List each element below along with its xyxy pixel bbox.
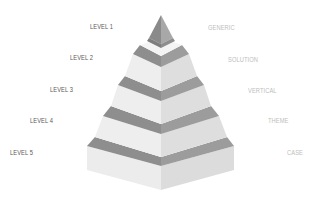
tier-1-apex: [147, 15, 175, 48]
level-5-label: LEVEL 5: [10, 149, 33, 156]
level-4-label: LEVEL 4: [30, 117, 53, 124]
level-1-label: LEVEL 1: [90, 23, 113, 30]
category-generic-label: GENERIC: [208, 24, 235, 31]
category-theme-label: THEME: [268, 117, 289, 124]
pyramid-diagram: LEVEL 1 LEVEL 2 LEVEL 3 LEVEL 4 LEVEL 5 …: [0, 0, 317, 204]
category-vertical-label: VERTICAL: [248, 87, 277, 94]
category-case-label: CASE: [287, 149, 303, 156]
category-solution-label: SOLUTION: [228, 56, 258, 63]
level-3-label: LEVEL 3: [50, 86, 73, 93]
pyramid-graphic: [0, 0, 317, 204]
level-2-label: LEVEL 2: [70, 54, 93, 61]
